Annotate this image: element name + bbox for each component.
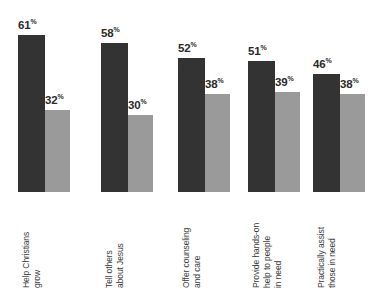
percent-symbol: %: [325, 57, 331, 64]
bar: [178, 58, 205, 192]
bar-group: 61%32%: [18, 0, 70, 192]
bar-column: 61%: [18, 0, 45, 192]
percent-symbol: %: [140, 98, 146, 105]
bar: [248, 61, 275, 192]
category-label-line: and care: [192, 256, 203, 288]
bar-value-label: 51%: [248, 44, 267, 57]
category-label-line: Practically assist: [316, 227, 327, 288]
category-label-line: Tell others: [104, 250, 115, 288]
category-label-line: Offer counseling: [181, 228, 192, 288]
category-label-line: those in need: [327, 238, 338, 288]
bar-column: 38%: [340, 0, 365, 192]
bar-column: 51%: [248, 0, 275, 192]
bar-value-label: 39%: [275, 75, 294, 88]
category-label-line: Help Christians: [21, 232, 32, 288]
bar: [128, 115, 153, 192]
bar-column: 39%: [275, 0, 300, 192]
bar-group: 46%38%: [313, 0, 365, 192]
bar: [18, 35, 45, 192]
category-label-line: help to people: [262, 236, 273, 288]
bar: [275, 92, 300, 192]
category-label-line: about Jesus: [115, 243, 126, 288]
bar-group: 51%39%: [248, 0, 300, 192]
bar-column: 32%: [45, 0, 70, 192]
percent-symbol: %: [352, 77, 358, 84]
bar-value-label: 38%: [205, 77, 224, 90]
bar-value-number: 51: [248, 45, 260, 57]
category-label-line: Provide hands-on: [251, 223, 262, 288]
bar-value-number: 32: [45, 94, 57, 106]
bar-value-number: 52: [178, 42, 190, 54]
category-label: Practically assistthose in need: [314, 192, 370, 288]
bar-column: 46%: [313, 0, 340, 192]
bar-value-label: 52%: [178, 41, 197, 54]
percent-symbol: %: [113, 26, 119, 33]
percent-symbol: %: [217, 77, 223, 84]
bar-value-label: 30%: [128, 98, 147, 111]
category-axis: Help ChristiansgrowTell othersabout Jesu…: [0, 192, 370, 288]
bar-value-number: 61: [18, 19, 30, 31]
percent-symbol: %: [30, 18, 36, 25]
percent-symbol: %: [190, 41, 196, 48]
bar-group: 58%30%: [101, 0, 153, 192]
bar: [313, 74, 340, 192]
plot-area: 61%32%58%30%52%38%51%39%46%38%: [0, 0, 370, 192]
bar-column: 38%: [205, 0, 230, 192]
bar-value-number: 30: [128, 99, 140, 111]
bar-value-number: 58: [101, 27, 113, 39]
bar: [205, 94, 230, 192]
bar-value-label: 38%: [340, 77, 359, 90]
bar-value-number: 38: [340, 78, 352, 90]
bar: [45, 110, 70, 192]
bar-group: 52%38%: [178, 0, 230, 192]
bar-chart: 61%32%58%30%52%38%51%39%46%38% Help Chri…: [0, 0, 370, 288]
bar-value-number: 46: [313, 58, 325, 70]
bar-column: 58%: [101, 0, 128, 192]
bar: [101, 43, 128, 192]
percent-symbol: %: [260, 44, 266, 51]
bar-value-label: 58%: [101, 26, 120, 39]
bar-column: 30%: [128, 0, 153, 192]
bar-value-label: 32%: [45, 93, 64, 106]
bar: [340, 94, 365, 192]
bar-value-label: 46%: [313, 57, 332, 70]
percent-symbol: %: [57, 93, 63, 100]
category-label-line: in need: [273, 261, 284, 288]
bar-column: 52%: [178, 0, 205, 192]
bar-value-number: 38: [205, 78, 217, 90]
category-label: Help Christiansgrow: [19, 192, 115, 288]
bar-value-number: 39: [275, 76, 287, 88]
bar-value-label: 61%: [18, 18, 37, 31]
percent-symbol: %: [287, 75, 293, 82]
category-label-line: grow: [32, 270, 43, 288]
